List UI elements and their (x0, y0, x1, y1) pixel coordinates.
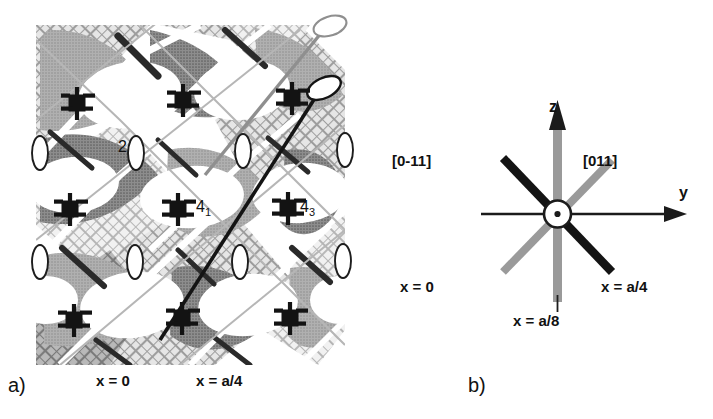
panel-b-caption-x-a8: x = a/8 (513, 312, 559, 329)
panel-b-caption-x-a4: x = a/4 (601, 278, 647, 295)
y-axis-label: y (679, 184, 688, 202)
direction-0-minus-1-1-label: [0-11] (392, 152, 431, 169)
x-axis-out-of-page-symbol (544, 201, 571, 228)
panel-b-label: b) (468, 374, 486, 397)
direction-011-label: [011] (583, 152, 617, 169)
panel-b-direction-star (0, 0, 713, 419)
figure-root: 2 41 43 x = 0 x = a/4 a) (0, 0, 713, 419)
panel-b-caption-x-zero: x = 0 (400, 278, 434, 295)
z-axis-label: z (549, 98, 557, 116)
y-axis-arrow (481, 206, 687, 222)
